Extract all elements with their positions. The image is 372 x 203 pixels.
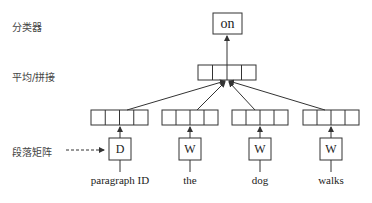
- label-paragraph-matrix: 段落矩阵: [12, 144, 52, 159]
- input-symbol-w-the: W: [184, 142, 195, 157]
- word-dog: dog: [252, 174, 269, 186]
- word-walks: walks: [318, 174, 344, 186]
- output-word: on: [221, 16, 235, 32]
- embedding-vector-the: [162, 110, 218, 125]
- input-symbol-w-walks: W: [325, 142, 336, 157]
- arrow-dog-to-concat: [229, 82, 255, 110]
- word-paragraph-id: paragraph ID: [91, 174, 149, 186]
- word-the: the: [183, 174, 196, 186]
- arrow-walks-to-concat: [229, 81, 325, 110]
- embedding-vector-paragraph: [91, 110, 148, 125]
- label-classifier: 分类器: [12, 19, 42, 34]
- embedding-vector-dog: [232, 110, 288, 125]
- arrow-paragraph-to-concat: [127, 81, 225, 110]
- arrow-the-to-concat: [197, 82, 225, 110]
- label-average-concat: 平均/拼接: [12, 69, 55, 84]
- concat-vector: [198, 65, 256, 80]
- input-symbol-d: D: [116, 142, 125, 157]
- embedding-vector-walks: [303, 110, 359, 125]
- diagram-canvas: [0, 0, 372, 203]
- input-symbol-w-dog: W: [254, 142, 265, 157]
